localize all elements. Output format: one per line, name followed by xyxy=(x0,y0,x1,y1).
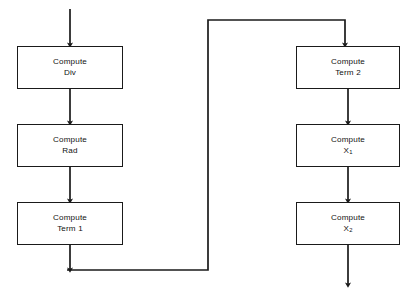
node-label-line2: Term 2 xyxy=(335,67,361,79)
node-compute-term-1: Compute Term 1 xyxy=(17,202,123,245)
node-compute-x1: Compute X1 xyxy=(296,124,400,167)
node-label-line2: Rad xyxy=(62,145,77,157)
node-label-line1: Compute xyxy=(53,212,87,223)
node-compute-x2: Compute X2 xyxy=(296,202,400,245)
node-label-line1: Compute xyxy=(331,134,365,145)
node-label-line1: Compute xyxy=(331,56,365,67)
flowchart-canvas: Compute Div Compute Rad Compute Term 1 C… xyxy=(0,0,415,294)
node-label-line1: Compute xyxy=(53,56,87,67)
node-compute-term-2: Compute Term 2 xyxy=(296,46,400,89)
node-compute-div: Compute Div xyxy=(17,46,123,89)
node-label-line2: X1 xyxy=(344,145,353,157)
node-label-line1: Compute xyxy=(331,212,365,223)
node-label-line2: Term 1 xyxy=(57,223,83,235)
node-label-line2: Div xyxy=(64,67,76,79)
node-label-line2: X2 xyxy=(344,223,353,235)
node-label-line1: Compute xyxy=(53,134,87,145)
node-compute-rad: Compute Rad xyxy=(17,124,123,167)
